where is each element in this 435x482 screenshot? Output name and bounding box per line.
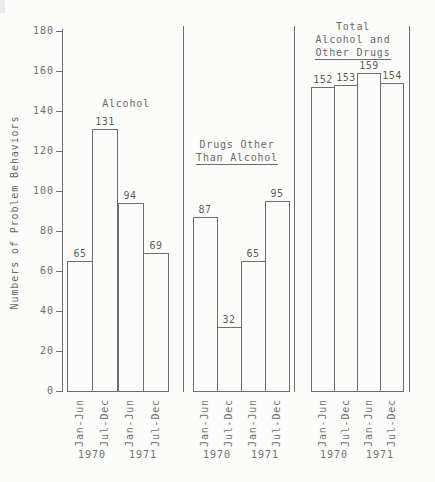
y-axis-line	[62, 29, 63, 392]
y-axis-tick-label: 60	[26, 265, 54, 276]
y-axis-tick	[56, 191, 62, 192]
group-title-line: Drugs Other	[177, 139, 297, 150]
bar	[311, 87, 335, 392]
bar	[143, 253, 169, 392]
bar-value-label: 131	[87, 116, 123, 127]
y-axis-tick	[56, 391, 62, 392]
category-label: Jan-Jun	[74, 396, 86, 450]
bar-value-label: 87	[187, 204, 223, 215]
category-label: Jul-Dec	[271, 396, 283, 450]
category-label: Jul-Dec	[223, 396, 235, 450]
group-title-text-underlined: Than Alcohol	[196, 152, 278, 165]
y-axis-tick-label: 180	[26, 25, 54, 36]
category-label: Jan-Jun	[247, 396, 259, 450]
y-axis-tick-label: 120	[26, 145, 54, 156]
bar	[380, 83, 404, 392]
y-axis-tick	[56, 351, 62, 352]
y-axis-tick	[56, 231, 62, 232]
category-label: Jul-Dec	[340, 396, 352, 450]
bar	[67, 261, 93, 392]
y-axis-tick	[56, 31, 62, 32]
bar	[241, 261, 266, 392]
group-title-line: Other Drugs	[293, 47, 413, 58]
bar	[92, 129, 118, 392]
bar	[193, 217, 218, 392]
bar	[217, 327, 242, 392]
bar	[118, 203, 144, 392]
year-label: 1971	[118, 449, 168, 460]
y-axis-tick-label: 100	[26, 185, 54, 196]
y-axis-tick-label: 160	[26, 65, 54, 76]
bar-value-label: 95	[259, 188, 295, 199]
bar	[357, 73, 381, 392]
bar-chart-figure: 020406080100120140160180Numbers of Probl…	[0, 0, 435, 482]
y-axis-tick-label: 40	[26, 305, 54, 316]
y-axis-tick	[56, 151, 62, 152]
year-label: 1970	[192, 449, 242, 460]
year-label: 1970	[67, 449, 117, 460]
y-axis-tick-label: 140	[26, 105, 54, 116]
group-title-line: Total	[293, 21, 413, 32]
year-label: 1971	[240, 449, 290, 460]
y-axis-tick	[56, 271, 62, 272]
group-title-text: Drugs Other	[199, 139, 274, 150]
category-label: Jan-Jun	[124, 396, 136, 450]
group-title-line: Alcohol	[66, 98, 186, 109]
category-label: Jan-Jun	[317, 396, 329, 450]
panel-divider	[183, 26, 184, 392]
bar-value-label: 69	[138, 240, 174, 251]
group-title-text: Alcohol	[102, 98, 150, 109]
category-label: Jul-Dec	[99, 396, 111, 450]
group-title-text-underlined: Other Drugs	[315, 47, 390, 60]
panel-divider	[294, 26, 295, 392]
group-title-line: Than Alcohol	[177, 152, 297, 163]
y-axis-tick-label: 0	[26, 385, 54, 396]
group-title-line: Alcohol and	[293, 34, 413, 45]
bar-value-label: 94	[112, 190, 148, 201]
year-label: 1971	[355, 449, 405, 460]
scan-artifact	[0, 0, 5, 13]
category-label: Jul-Dec	[150, 396, 162, 450]
category-label: Jan-Jun	[363, 396, 375, 450]
category-label: Jan-Jun	[199, 396, 211, 450]
group-title-text: Alcohol and	[315, 34, 390, 45]
y-axis-title: Numbers of Problem Behaviors	[9, 113, 20, 313]
bar	[334, 85, 358, 392]
y-axis-tick-label: 80	[26, 225, 54, 236]
group-title-text: Total	[336, 21, 370, 32]
y-axis-tick-label: 20	[26, 345, 54, 356]
bar	[265, 201, 290, 392]
y-axis-tick	[56, 311, 62, 312]
year-label: 1970	[309, 449, 359, 460]
category-label: Jul-Dec	[386, 396, 398, 450]
y-axis-tick	[56, 111, 62, 112]
bar-value-label: 154	[374, 70, 410, 81]
y-axis-tick	[56, 71, 62, 72]
